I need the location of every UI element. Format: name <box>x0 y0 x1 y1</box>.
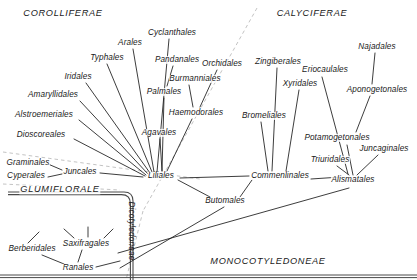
order-label-juncaginales: Juncaginales <box>359 145 409 153</box>
edge-commenlinales-xyridales <box>286 90 299 171</box>
edge-butomales-commenlinales <box>240 180 252 197</box>
order-label-arales: Arales <box>118 39 143 47</box>
order-label-juncales: Juncales <box>63 168 97 176</box>
order-label-dioscoreales: Dioscoreales <box>16 131 66 139</box>
edge-saxifragales-s-spur-l <box>64 229 74 238</box>
order-label-cyperales: Cyperales <box>7 172 46 180</box>
order-label-zingiberales: Zingiberales <box>255 58 302 66</box>
edge-ranales-dicot-trunk <box>96 261 120 267</box>
order-label-berberidales: Berberidales <box>8 245 56 253</box>
order-label-xyridales: Xyridales <box>282 80 318 88</box>
edge-ranales-berberidales <box>42 255 64 264</box>
edge-liliales-agavales <box>160 139 162 171</box>
order-label-triuridales: Triuridales <box>310 156 350 164</box>
edge-liliales-juncales <box>100 173 143 177</box>
order-label-alstroemeriales: Alstroemeriales <box>14 111 73 119</box>
phylogeny-diagram: COROLLIFERAECALYCIFERAEGLUMIFLORALEMONOC… <box>0 0 417 280</box>
order-label-amaryllidales: Amaryllidales <box>27 91 78 99</box>
group-label-monocotyledoneae: MONOCOTYLEDONEAE <box>209 257 326 266</box>
order-label-liliales: Liliales <box>147 172 174 180</box>
order-label-aponogetonales: Aponogetonales <box>346 86 408 94</box>
edge-saxifragales-s-spur-r <box>104 229 113 238</box>
order-label-cyclanthales: Cyclanthales <box>147 29 196 37</box>
order-label-graminales: Graminales <box>6 159 50 167</box>
edge-juncales-graminales <box>48 164 62 170</box>
order-label-burmanniales: Burmanniales <box>169 75 221 83</box>
order-label-butomales: Butomales <box>205 197 246 205</box>
order-label-najadales: Najadales <box>358 43 397 51</box>
edge-butomales-liliales <box>178 180 210 197</box>
group-label-calyciferae: CALYCIFERAE <box>276 9 349 18</box>
group-label-glumiflorale: GLUMIFLORALE <box>19 185 100 194</box>
order-label-agavales: Agavales <box>141 129 177 137</box>
edge-haemodorales-burmanniales <box>189 85 193 107</box>
order-label-bromeliales: Bromeliales <box>241 112 286 120</box>
edge-commenlinales-bromeliales <box>261 122 268 171</box>
order-label-orchidales: Orchidales <box>201 60 242 68</box>
order-label-alismatales: Alismatales <box>331 176 375 184</box>
group-label-dicotyledoneae: Dicotyledoneae <box>127 201 135 260</box>
order-label-haemodorales: Haemodorales <box>168 109 224 117</box>
order-label-potamogetonales: Potamogetonales <box>304 134 370 142</box>
order-label-palmales: Palmales <box>146 88 182 96</box>
bottom-rule <box>0 275 417 278</box>
group-label-corolliferae: COROLLIFERAE <box>22 9 103 18</box>
order-label-iridales: Iridales <box>64 73 92 81</box>
edge-berberidales-b-spur <box>28 232 39 243</box>
order-label-eriocaulales: Eriocaulales <box>302 66 349 74</box>
edge-liliales-haemodorales <box>167 119 192 171</box>
order-label-pandanales: Pandanales <box>154 56 199 64</box>
edge-liliales-typhales <box>107 64 152 172</box>
order-label-commenlinales: Commenlinales <box>251 172 310 180</box>
edge-alismatales-juncaginales <box>357 155 378 175</box>
edge-juncales-cyperales <box>48 174 62 177</box>
edge-aponogetonales-najadales <box>372 53 375 84</box>
edge-commenlinales-liliales <box>180 176 249 178</box>
edge-ranales-saxifragales <box>78 250 82 262</box>
order-label-typhales: Typhales <box>90 54 125 62</box>
edge-potamogetonales-aponogetonales <box>356 96 370 132</box>
order-label-saxifragales: Saxifragales <box>62 240 109 248</box>
order-label-ranales: Ranales <box>62 264 94 272</box>
